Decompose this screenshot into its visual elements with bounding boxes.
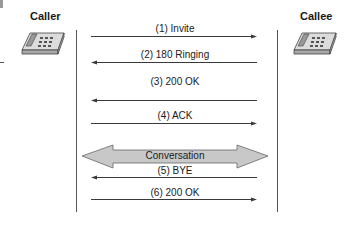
message-5-label: (5) BYE <box>85 165 265 176</box>
message-4-label: (4) ACK <box>85 110 265 121</box>
message-2-label: (2) 180 Ringing <box>85 49 265 60</box>
callee-telephone-icon <box>294 33 336 54</box>
message-4-arrow <box>91 122 257 126</box>
message-3-label: (3) 200 OK <box>85 76 265 87</box>
message-5-arrow <box>91 176 257 180</box>
message-2-arrow <box>91 61 257 65</box>
message-1-label: (1) Invite <box>85 23 265 34</box>
message-6-label: (6) 200 OK <box>85 187 265 198</box>
message-6-arrow <box>91 198 257 202</box>
caller-telephone-icon <box>22 33 64 54</box>
conversation-label: Conversation <box>85 150 265 161</box>
message-1-arrow <box>91 35 257 39</box>
message-3-arrow <box>91 99 257 103</box>
